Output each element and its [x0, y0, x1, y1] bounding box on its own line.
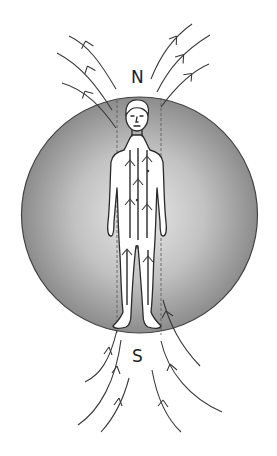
field-line	[161, 341, 222, 412]
arrow-icon	[168, 35, 177, 45]
arrow-icon	[83, 65, 95, 74]
field-line	[152, 370, 181, 432]
magnetic-field-diagram: N S	[0, 0, 277, 456]
arrow-icon	[167, 364, 177, 371]
arrow-icon	[104, 347, 112, 355]
arrow-icon	[174, 53, 184, 63]
arrow-icon	[182, 72, 192, 82]
marker-dot	[147, 170, 149, 172]
field-line	[101, 378, 129, 432]
field-line	[69, 36, 116, 89]
arrow-icon	[114, 398, 122, 406]
field-line	[85, 330, 117, 382]
field-line	[157, 35, 210, 92]
south-pole-label: S	[132, 346, 143, 366]
field-line	[78, 340, 121, 425]
field-line	[151, 24, 192, 79]
arrow-icon	[112, 366, 120, 374]
arrow-icon	[80, 89, 93, 99]
marker-dot	[136, 199, 138, 201]
field-line	[57, 53, 112, 110]
north-pole-label: N	[131, 67, 144, 87]
